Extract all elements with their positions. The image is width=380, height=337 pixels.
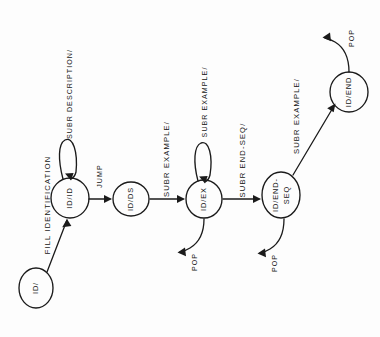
edge-label-jump: JUMP	[96, 164, 104, 188]
arrow-head-subr-end-seq	[253, 195, 261, 203]
edge-fill-identification: FILL IDENTIFICATION	[43, 156, 71, 272]
edge-jump: JUMP	[89, 164, 112, 203]
state-node-id-ds-label: ID/DS	[126, 187, 135, 211]
state-diagram-canvas: FILL IDENTIFICATION SUBR DESCRIPTION/ JU…	[0, 0, 380, 337]
arrow-head-subr-example-1	[177, 195, 185, 203]
edge-subr-end-seq: SUBR END-SEQ/	[223, 123, 261, 203]
edge-label-subr-example-2: SUBR EXAMPLE/	[292, 78, 301, 154]
state-node-id-end[interactable]: ID/END	[330, 72, 368, 112]
edge-label-subr-example-1: SUBR EXAMPLE/	[162, 121, 171, 197]
arrow-head-pop-2	[258, 249, 267, 258]
edge-pop-3: POP	[323, 29, 356, 72]
arrow-head-pop-1	[178, 248, 187, 257]
edge-label-fill-identification: FILL IDENTIFICATION	[43, 156, 52, 255]
edge-pop-1: POP	[178, 219, 205, 271]
loop-path-subr-example	[195, 143, 211, 182]
state-node-id-end-seq-label-line1: ID/END-	[271, 178, 280, 212]
loop-path-subr-description	[59, 139, 76, 179]
state-node-id-end-label: ID/END	[344, 77, 353, 107]
edge-subr-example-2: SUBR EXAMPLE/	[292, 78, 336, 175]
edge-label-pop-1: POP	[191, 253, 199, 271]
edge-path-pop-3	[325, 38, 349, 72]
state-node-id-ex-label: ID/EX	[199, 187, 208, 211]
edge-pop-2: POP	[258, 219, 285, 272]
state-node-id-id[interactable]: ID/ID	[51, 178, 89, 218]
state-node-start-label: ID/	[31, 282, 40, 294]
arrow-head-fill-identification	[62, 219, 71, 227]
edge-label-pop-3: POP	[348, 29, 356, 47]
edge-subr-description-self-loop: SUBR DESCRIPTION/	[59, 49, 76, 180]
arrow-head-jump	[104, 195, 112, 203]
state-node-start[interactable]: ID/	[19, 268, 53, 308]
arrow-head-subr-description	[65, 173, 74, 181]
edge-path-pop-1	[180, 219, 204, 252]
state-node-id-end-seq[interactable]: ID/END- SEQ	[262, 172, 300, 218]
edge-label-subr-example-loop: SUBR EXAMPLE/	[201, 67, 209, 138]
state-node-id-ds[interactable]: ID/DS	[113, 182, 149, 216]
arrow-head-pop-3	[323, 33, 332, 42]
edge-label-subr-end-seq: SUBR END-SEQ/	[238, 123, 247, 198]
edge-path-pop-2	[260, 219, 284, 253]
edge-label-subr-description: SUBR DESCRIPTION/	[66, 49, 74, 139]
state-transition-diagram: FILL IDENTIFICATION SUBR DESCRIPTION/ JU…	[0, 0, 380, 337]
state-node-id-id-label: ID/ID	[65, 187, 74, 208]
state-node-id-end-seq-label-line2: SEQ	[282, 186, 291, 204]
state-node-id-ex[interactable]: ID/EX	[186, 180, 222, 218]
edge-subr-example-1: SUBR EXAMPLE/	[150, 121, 185, 203]
edge-subr-example-self-loop: SUBR EXAMPLE/	[195, 67, 211, 184]
edge-label-pop-2: POP	[271, 254, 279, 272]
